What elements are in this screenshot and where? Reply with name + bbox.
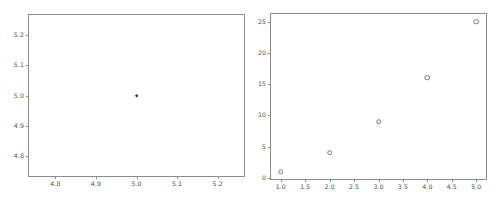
x-axis-tick <box>137 176 138 179</box>
y-axis-tick-label: 10 <box>258 112 266 118</box>
y-axis-tick-label: 25 <box>258 18 266 24</box>
x-axis-tick <box>218 176 219 179</box>
x-axis-tick <box>305 179 306 182</box>
x-axis-tick-label: 1.0 <box>276 184 286 190</box>
y-axis-tick-label: 20 <box>258 50 266 56</box>
x-axis-tick-label: 2.0 <box>325 184 335 190</box>
x-axis-tick <box>427 179 428 182</box>
x-axis-tick-label: 5.0 <box>471 184 481 190</box>
y-axis-tick <box>268 84 271 85</box>
y-axis-tick-label: 5.1 <box>14 62 24 68</box>
y-axis-tick-label: 4.8 <box>14 153 24 159</box>
y-axis-tick-label: 4.9 <box>14 123 24 129</box>
right-figure: 05101520251.01.52.02.53.03.54.04.55.0 <box>250 0 497 203</box>
x-axis-tick <box>55 176 56 179</box>
y-axis-tick-label: 15 <box>258 81 266 87</box>
y-axis-tick <box>268 53 271 54</box>
x-axis-tick <box>379 179 380 182</box>
x-axis-tick <box>476 179 477 182</box>
y-axis-tick <box>26 35 29 36</box>
x-axis-tick-label: 2.5 <box>349 184 359 190</box>
data-point-marker <box>425 75 431 81</box>
y-axis-tick <box>268 22 271 23</box>
y-axis-tick <box>268 115 271 116</box>
right-plot-axes: 05101520251.01.52.02.53.03.54.04.55.0 <box>270 13 487 180</box>
left-plot-axes: 4.84.95.05.15.24.84.95.05.15.2 <box>28 14 245 177</box>
y-axis-tick <box>268 147 271 148</box>
x-axis-tick-label: 3.0 <box>373 184 383 190</box>
data-point-marker <box>327 150 333 156</box>
x-axis-tick-label: 4.5 <box>447 184 457 190</box>
data-point-marker <box>376 119 382 125</box>
x-axis-tick-label: 5.1 <box>172 181 182 187</box>
y-axis-tick <box>268 178 271 179</box>
right-plot-area: 05101520251.01.52.02.53.03.54.04.55.0 <box>271 14 486 179</box>
left-figure: 4.84.95.05.15.24.84.95.05.15.2 <box>0 0 250 203</box>
x-axis-tick <box>281 179 282 182</box>
x-axis-tick <box>330 179 331 182</box>
x-axis-tick <box>177 176 178 179</box>
x-axis-tick <box>452 179 453 182</box>
y-axis-tick-label: 0 <box>262 175 266 181</box>
y-axis-tick <box>26 156 29 157</box>
x-axis-tick-label: 1.5 <box>300 184 310 190</box>
y-axis-tick-label: 5 <box>262 143 266 149</box>
x-axis-tick-label: 4.9 <box>91 181 101 187</box>
x-axis-tick <box>403 179 404 182</box>
data-point-marker <box>473 19 479 25</box>
left-plot-area: 4.84.95.05.15.24.84.95.05.15.2 <box>29 15 244 176</box>
data-point-marker <box>278 169 284 175</box>
y-axis-tick-label: 5.0 <box>14 92 24 98</box>
x-axis-tick-label: 4.0 <box>422 184 432 190</box>
x-axis-tick-label: 3.5 <box>398 184 408 190</box>
y-axis-tick <box>26 126 29 127</box>
x-axis-tick-label: 5.2 <box>213 181 223 187</box>
y-axis-tick <box>26 65 29 66</box>
y-axis-tick-label: 5.2 <box>14 32 24 38</box>
data-point-marker <box>135 94 139 98</box>
x-axis-tick-label: 5.0 <box>131 181 141 187</box>
x-axis-tick-label: 4.8 <box>50 181 60 187</box>
x-axis-tick <box>354 179 355 182</box>
x-axis-tick <box>96 176 97 179</box>
figure-canvas: 4.84.95.05.15.24.84.95.05.15.2 051015202… <box>0 0 497 203</box>
y-axis-tick <box>26 96 29 97</box>
